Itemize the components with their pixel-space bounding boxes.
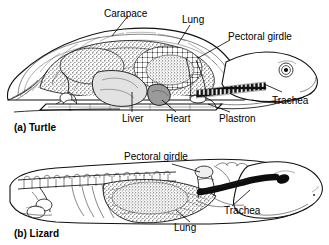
label-plastron-turtle: Plastron xyxy=(219,113,256,124)
caption-lizard: (b) Lizard xyxy=(14,228,59,239)
reptile-anatomy-figure: Carapace Lung Pectoral girdle Trachea Pl… xyxy=(0,0,329,245)
lizard-diagram xyxy=(10,159,322,224)
label-lung-lizard: Lung xyxy=(174,222,196,233)
label-carapace-turtle: Carapace xyxy=(104,8,147,19)
label-trachea-lizard: Trachea xyxy=(224,205,260,216)
label-pectoral-girdle-turtle: Pectoral girdle xyxy=(228,31,292,42)
label-trachea-turtle: Trachea xyxy=(272,95,308,106)
label-liver-turtle: Liver xyxy=(122,113,144,124)
caption-turtle: (a) Turtle xyxy=(14,122,56,133)
label-pectoral-girdle-lizard: Pectoral girdle xyxy=(124,151,188,162)
label-lung-turtle: Lung xyxy=(182,14,204,25)
label-heart-turtle: Heart xyxy=(166,113,190,124)
